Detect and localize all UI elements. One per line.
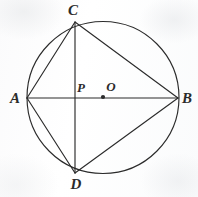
label-o: O xyxy=(106,79,116,94)
circle-diagram: A B C D P O xyxy=(0,0,198,197)
label-c: C xyxy=(68,2,79,18)
label-a: A xyxy=(9,90,20,106)
geometry-figure: A B C D P O xyxy=(0,0,198,197)
label-b: B xyxy=(181,90,192,106)
center-dot-o xyxy=(101,95,105,99)
segment-cb xyxy=(75,22,178,98)
segment-ac xyxy=(27,22,75,98)
segment-ad xyxy=(27,98,75,173)
label-d: D xyxy=(70,176,82,192)
segment-db xyxy=(75,98,178,173)
label-p: P xyxy=(77,80,86,95)
